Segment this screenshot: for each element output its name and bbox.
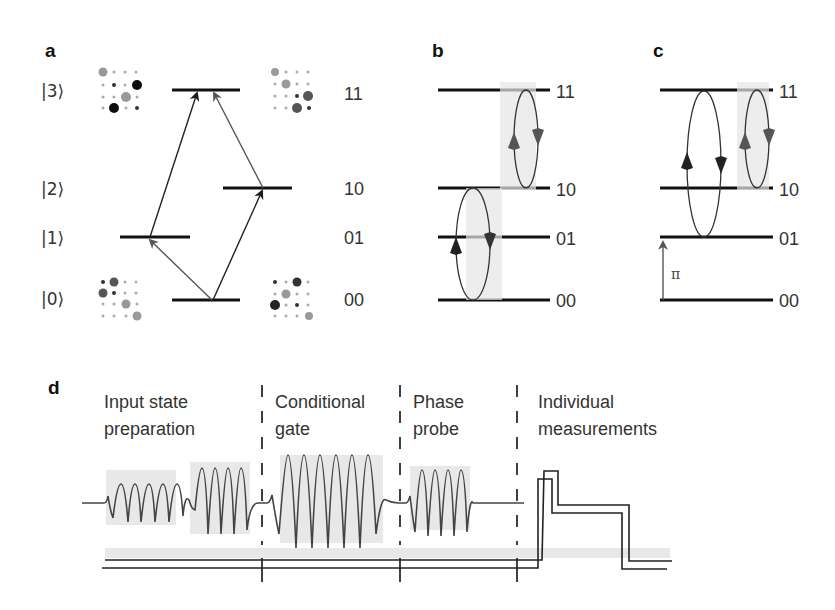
pi-pulse-label: π <box>671 266 680 282</box>
figure-canvas: a |3⟩ |2⟩ |1⟩ |0⟩ 11 10 01 00 <box>0 0 835 610</box>
panel-b: b 11 10 01 00 <box>432 40 576 311</box>
arrow-up-icon <box>681 152 693 170</box>
density-matrix-top-right <box>271 68 313 113</box>
panel-c-label: c <box>653 40 664 61</box>
panel-c: c 11 10 01 00 π <box>653 40 799 311</box>
phase-probe-line1: Phase <box>413 392 464 412</box>
transition-arrows-a <box>150 93 263 300</box>
panel-d: d Input state preparation Conditional ga… <box>48 377 672 582</box>
state-label-00: 00 <box>344 290 364 310</box>
c-state-11: 11 <box>779 82 798 102</box>
c-state-00: 00 <box>779 291 799 311</box>
b-state-10: 10 <box>556 180 576 200</box>
ket-1: |1⟩ <box>41 228 64 248</box>
c-state-10: 10 <box>779 180 799 200</box>
state-label-01: 01 <box>344 228 364 248</box>
arrow-down-icon <box>715 156 727 174</box>
phase-measure-line2: measurements <box>538 419 657 439</box>
state-label-11: 11 <box>344 84 363 104</box>
density-matrix-top-left <box>99 68 143 114</box>
b-state-00: 00 <box>556 291 576 311</box>
c-state-01: 01 <box>779 229 799 249</box>
b-state-01: 01 <box>556 229 576 249</box>
phase-input-line1: Input state <box>104 392 188 412</box>
b-state-11: 11 <box>556 82 575 102</box>
phase-gate-line1: Conditional <box>275 392 365 412</box>
panel-d-label: d <box>48 377 60 398</box>
panel-b-label: b <box>432 40 444 61</box>
density-matrix-bottom-left <box>99 278 142 321</box>
ket-2: |2⟩ <box>41 179 64 199</box>
density-matrix-bottom-right <box>270 278 313 321</box>
panel-a: a |3⟩ |2⟩ |1⟩ |0⟩ 11 10 01 00 <box>41 40 364 321</box>
state-label-10: 10 <box>344 179 364 199</box>
energy-levels-a <box>120 90 292 300</box>
phase-gate-line2: gate <box>275 419 310 439</box>
loop-01-11-c <box>687 91 721 237</box>
arrow-up-icon <box>450 237 462 255</box>
panel-a-label: a <box>45 40 56 61</box>
pulse-shading <box>105 455 670 558</box>
ket-3: |3⟩ <box>41 81 64 101</box>
phase-input-line2: preparation <box>104 419 195 439</box>
ket-0: |0⟩ <box>41 289 64 309</box>
phase-measure-line1: Individual <box>538 392 614 412</box>
phase-probe-line2: probe <box>413 419 459 439</box>
